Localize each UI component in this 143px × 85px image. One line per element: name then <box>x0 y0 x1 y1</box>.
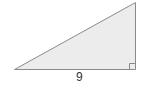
triangle-shape <box>15 3 136 70</box>
right-triangle <box>0 0 143 85</box>
base-label: 9 <box>76 70 83 84</box>
